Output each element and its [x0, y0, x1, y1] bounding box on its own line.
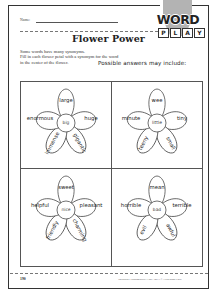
petal-word-right: huge [84, 115, 97, 121]
flower-drawing [20, 169, 112, 257]
answers-note: Possible answers may include: [98, 60, 186, 66]
petal-word-right: tiny [177, 115, 187, 121]
flower-drawing [111, 82, 203, 170]
logo-play-tiles: P L A Y [158, 28, 205, 38]
copyright-text: Vocabulary Fundamentals • TMC 3963 • © E… [118, 278, 182, 281]
footer-divider [10, 273, 208, 274]
page-title: Flower Power [72, 33, 145, 44]
petal-word-left: enormous [27, 115, 53, 121]
logo-tile-y: Y [194, 28, 205, 38]
center-word: nice [56, 207, 76, 212]
flower-nice: sweethelpfulpleasantfriendlycharmingnice [20, 169, 112, 257]
petal-word-top: mean [149, 184, 164, 190]
petal-word-left: helpful [31, 202, 49, 208]
flower-drawing [111, 169, 203, 257]
flower-little: weeminutetinyteenysmalllittle [111, 82, 203, 170]
logo-tile-a: A [182, 28, 193, 38]
petal-word-left: minute [122, 115, 141, 121]
name-field-line[interactable] [36, 22, 118, 23]
flower-big: largeenormoushugeimmensegiganticbig [20, 82, 112, 170]
petal-word-top: wee [152, 97, 163, 103]
petal-word-right: terrible [172, 202, 191, 208]
center-word: little [147, 120, 167, 125]
name-label: Name: [20, 18, 30, 22]
petal-word-left: horrible [121, 202, 141, 208]
petal-word-right: pleasant [80, 202, 103, 208]
page-top-border-right [192, 5, 209, 6]
petal-word-top: large [59, 97, 72, 103]
page-number: 190 [20, 277, 26, 281]
center-word: big [56, 120, 76, 125]
flower-bad: meanhorribleterribleevilawfulbad [111, 169, 203, 257]
center-word: bad [147, 207, 167, 212]
logo-tile-l: L [170, 28, 181, 38]
logo-word-text: WORD [156, 14, 200, 26]
page-top-border [8, 5, 160, 6]
petal-word-top: sweet [58, 184, 74, 190]
logo-tile-p: P [158, 28, 169, 38]
flower-drawing [20, 82, 112, 170]
instruction-line: Fill in each flower petal with a synonym… [20, 54, 118, 59]
